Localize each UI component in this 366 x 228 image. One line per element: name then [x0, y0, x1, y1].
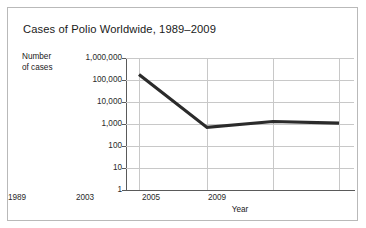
- polyline-cases-of-polio: [139, 74, 339, 127]
- y-tick-label-1000000: 1,000,000: [18, 53, 122, 62]
- plot-area: [126, 58, 354, 190]
- y-tick-label-10000: 10,000: [18, 97, 122, 106]
- x-tick-label-1989: 1989: [0, 193, 39, 202]
- x-tick-label-2009: 2009: [195, 193, 239, 202]
- x-tick-label-2003: 2003: [63, 193, 107, 202]
- data-line-series: [126, 58, 354, 190]
- y-tick-label-100000: 100,000: [18, 75, 122, 84]
- y-tick-label-100: 100: [18, 141, 122, 150]
- x-axis-line: [126, 190, 355, 191]
- figure-frame: Cases of Polio Worldwide, 1989–2009 Numb…: [7, 7, 358, 221]
- y-tick-label-10: 10: [18, 163, 122, 172]
- x-tick-label-2005: 2005: [129, 193, 173, 202]
- x-axis-title: Year: [126, 205, 354, 214]
- y-tick-label-1000: 1,000: [18, 119, 122, 128]
